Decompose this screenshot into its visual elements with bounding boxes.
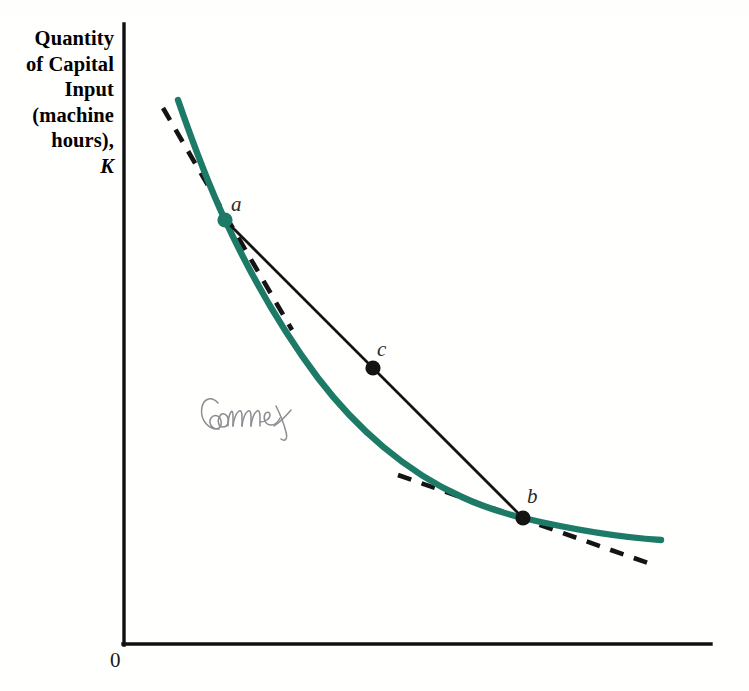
y-axis-label-line-5: hours), bbox=[0, 128, 114, 154]
point-label-a: a bbox=[231, 192, 242, 217]
y-axis-label: Quantity of Capital Input (machine hours… bbox=[0, 26, 114, 179]
isoquant-curve bbox=[178, 100, 661, 540]
point-c-marker bbox=[365, 360, 380, 375]
y-axis-label-line-1: Quantity bbox=[0, 26, 114, 52]
y-axis-label-line-4: (machine bbox=[0, 103, 114, 129]
origin-label: 0 bbox=[110, 648, 121, 673]
handwritten-convex-annotation bbox=[196, 386, 306, 444]
point-label-b: b bbox=[527, 484, 538, 509]
y-axis-label-line-3: Input bbox=[0, 77, 114, 103]
figure-canvas: Quantity of Capital Input (machine hours… bbox=[0, 0, 749, 691]
y-axis-label-symbol: K bbox=[0, 154, 114, 180]
point-label-c: c bbox=[377, 337, 386, 362]
y-axis-label-line-2: of Capital bbox=[0, 52, 114, 78]
point-b-marker bbox=[515, 510, 530, 525]
